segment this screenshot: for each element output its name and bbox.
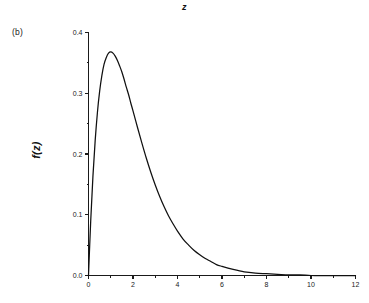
axes	[89, 33, 356, 276]
svg-text:0: 0	[87, 281, 91, 288]
svg-text:0.1: 0.1	[73, 211, 83, 218]
svg-text:0.2: 0.2	[73, 151, 83, 158]
svg-text:4: 4	[176, 281, 180, 288]
svg-text:2: 2	[131, 281, 135, 288]
svg-text:12: 12	[352, 281, 360, 288]
svg-text:0.0: 0.0	[73, 272, 83, 279]
svg-text:0.3: 0.3	[73, 90, 83, 97]
axis-tick-labels: 0.00.10.20.30.4024681012	[73, 29, 360, 288]
axis-ticks	[85, 33, 356, 280]
plot-area: 0.00.10.20.30.4024681012	[0, 0, 369, 303]
series-line	[89, 52, 356, 276]
data-series-curve	[89, 52, 356, 276]
svg-text:0.4: 0.4	[73, 29, 83, 36]
figure-panel: z (b) f(z) 0.00.10.20.30.4024681012	[0, 0, 369, 303]
svg-text:6: 6	[220, 281, 224, 288]
svg-text:10: 10	[307, 281, 315, 288]
svg-text:8: 8	[265, 281, 269, 288]
